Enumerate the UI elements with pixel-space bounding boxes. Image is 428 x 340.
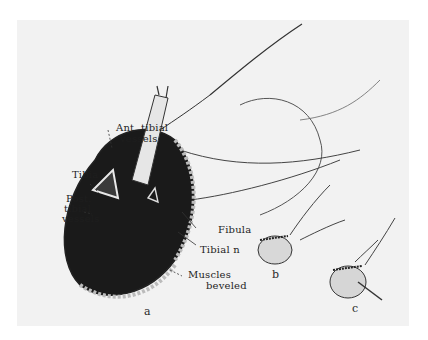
panel-label-b: b (272, 268, 279, 281)
panel-label-c: c (352, 302, 358, 315)
label-ant-tibial-vessels-line2: vessels (120, 134, 157, 144)
label-tibial-n: Tibial n (200, 245, 240, 255)
label-muscles-beveled-line2: beveled (206, 281, 247, 291)
label-post-tibial-vessels-line3: vessels (62, 214, 99, 224)
label-tibia: Tibia (72, 170, 98, 180)
label-ant-tibial-vessels-line1: Ant. tibial (116, 123, 168, 133)
panel-label-a: a (144, 305, 151, 318)
label-muscles-beveled-line1: Muscles (188, 270, 231, 280)
label-fibula: Fibula (218, 225, 251, 235)
